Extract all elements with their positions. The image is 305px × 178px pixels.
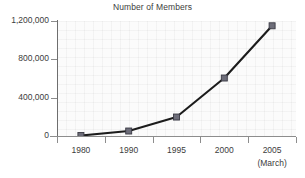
y-axis-tick-label: 400,000: [18, 93, 49, 102]
x-axis-tick: [296, 137, 297, 143]
y-axis-tick-label: 1,200,000: [11, 16, 49, 25]
x-axis-tick-label: 1995: [153, 145, 201, 155]
y-axis-tick: [51, 21, 57, 22]
data-series-line-chart: [57, 21, 296, 136]
x-axis-tick: [153, 137, 154, 143]
data-point-marker: [221, 75, 227, 81]
chart-title: Number of Members: [0, 2, 305, 13]
x-axis-tick-label: 2005: [248, 145, 296, 155]
x-axis-tick-label: 2000: [200, 145, 248, 155]
x-axis-tick-label: 1980: [57, 145, 105, 155]
y-axis-tick: [51, 59, 57, 60]
y-axis-tick-label: 0: [44, 131, 49, 140]
data-point-marker: [126, 128, 132, 134]
x-axis-tick: [57, 137, 58, 143]
x-axis-line: [50, 136, 296, 137]
x-axis-tick: [248, 137, 249, 143]
data-point-marker: [269, 23, 275, 29]
x-axis-tick-sublabel: (March): [248, 158, 296, 168]
x-axis-tick: [200, 137, 201, 143]
x-axis-tick: [105, 137, 106, 143]
y-axis-tick-label: 800,000: [18, 54, 49, 63]
plot-area: [57, 21, 296, 136]
y-axis-tick: [51, 98, 57, 99]
x-axis-tick-label: 1990: [105, 145, 153, 155]
y-axis-line: [57, 20, 58, 137]
data-point-marker: [174, 114, 180, 120]
chart-figure: Number of Members 1,200,000800,000400,00…: [0, 0, 305, 178]
